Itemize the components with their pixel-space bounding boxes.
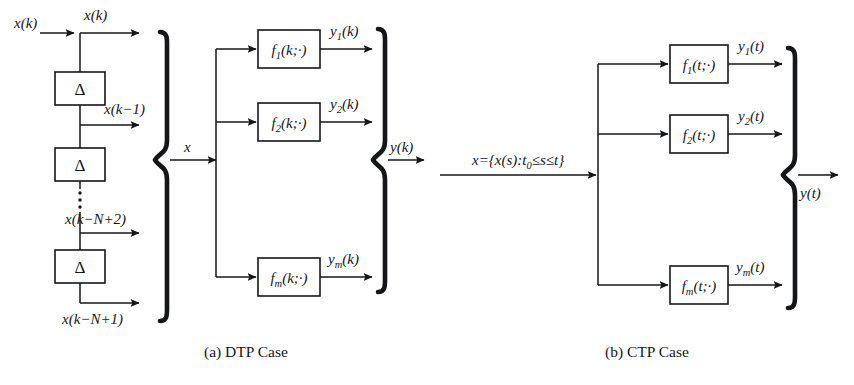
ctp-output-label-3: ym(t) [734, 259, 764, 278]
dtp-bus-label: x [183, 139, 191, 155]
dtp-tap-label-1: x(k−1) [103, 101, 145, 118]
dtp-tap-label-0: x(k) [83, 7, 107, 24]
caption-ctp: (b) CTP Case [605, 343, 689, 361]
dtp-final-output-label: y(k) [388, 139, 413, 156]
dtp-output-brace [373, 29, 385, 292]
dtp-tap-label-3: x(k−N+1) [61, 311, 123, 328]
dtp-ellipsis-dot-1 [78, 191, 81, 194]
block-diagram: Δ Δ Δ [0, 0, 854, 385]
dtp-delay-3-symbol: Δ [75, 258, 86, 277]
dtp-ellipsis-dot-2 [78, 198, 81, 201]
ctp-input-label: x={x(s):t0≤s≤t} [471, 152, 564, 171]
caption-dtp: (a) DTP Case [204, 343, 288, 361]
dtp-delay-1-symbol: Δ [75, 80, 86, 99]
dtp-output-label-1: y1(k) [328, 23, 359, 42]
ctp-output-brace [783, 48, 795, 308]
dtp-output-label-2: y2(k) [328, 96, 359, 115]
figure-canvas: Δ Δ Δ [0, 0, 854, 385]
dtp-delay-2-symbol: Δ [75, 156, 86, 175]
ctp-output-label-1: y1(t) [736, 38, 764, 57]
ctp-final-output-label: y(t) [798, 185, 821, 202]
dtp-ellipsis-dot-3 [78, 205, 81, 208]
dtp-gather-brace [155, 32, 167, 321]
dtp-tap-label-2: x(k−N+2) [64, 211, 126, 228]
dtp-output-label-3: ym(k) [326, 251, 359, 270]
ctp-output-label-2: y2(t) [736, 108, 764, 127]
dtp-input-label: x(k) [13, 15, 37, 32]
